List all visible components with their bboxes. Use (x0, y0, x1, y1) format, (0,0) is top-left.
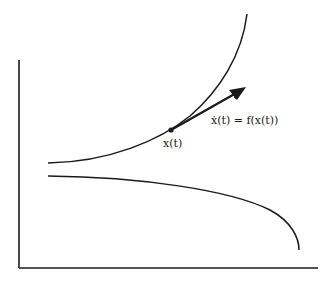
state-point (168, 127, 173, 132)
vector-label: ẋ(t) = f(x(t)) (211, 114, 278, 127)
arrowhead-icon (229, 87, 246, 100)
point-label: x(t) (163, 137, 182, 150)
lower-trajectory (48, 176, 299, 250)
upper-trajectory (48, 14, 247, 163)
diagram-canvas: x(t) ẋ(t) = f(x(t)) (0, 0, 332, 284)
